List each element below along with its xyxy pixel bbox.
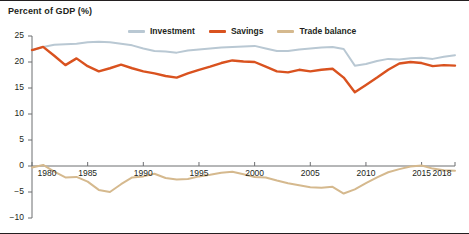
x-tick-label: 2000: [238, 168, 272, 178]
y-tick-label: −5: [2, 186, 24, 196]
x-tick-label: 1980: [30, 168, 64, 178]
x-tick-label: 2018: [425, 168, 459, 178]
chart-figure: Percent of GDP (%) Investment Savings Tr…: [0, 0, 469, 234]
y-tick-label: 5: [2, 134, 24, 144]
x-tick-label: 1985: [71, 168, 105, 178]
y-tick-label: 0: [2, 160, 24, 170]
x-tick-label: 2005: [293, 168, 327, 178]
x-tick-label: 1995: [182, 168, 216, 178]
y-tick-label: 25: [2, 30, 24, 40]
y-tick-label: 10: [2, 108, 24, 118]
y-tick-label: 20: [2, 56, 24, 66]
x-tick-label: 1990: [126, 168, 160, 178]
y-tick-label: −10: [2, 212, 24, 222]
x-tick-label: 2010: [349, 168, 383, 178]
y-tick-label: 15: [2, 82, 24, 92]
plot-area: [0, 0, 469, 234]
